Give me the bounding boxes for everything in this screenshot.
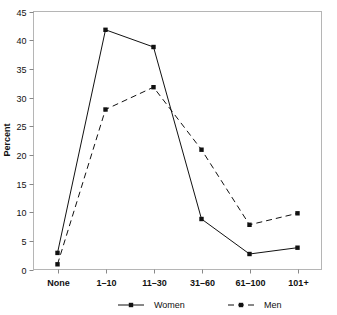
x-category-label: 31–60	[190, 278, 215, 288]
chart-figure: 051015202530354045 Percent None1–1011–30…	[0, 0, 337, 315]
series-line-women	[58, 30, 298, 254]
y-axis-ticks	[30, 13, 34, 271]
series-lines	[58, 30, 298, 264]
x-category-label: 101+	[288, 278, 308, 288]
x-category-label: None	[47, 278, 70, 288]
data-point-marker	[151, 45, 155, 49]
data-point-marker	[103, 28, 107, 32]
data-point-marker	[247, 223, 251, 227]
y-tick-label: 45	[16, 8, 26, 18]
series-line-men	[58, 87, 298, 264]
y-tick-label: 30	[16, 94, 26, 104]
legend-marker	[129, 303, 133, 307]
x-category-label: 11–30	[142, 278, 167, 288]
y-axis-title: Percent	[2, 123, 12, 156]
y-tick-label: 15	[16, 180, 26, 190]
legend-label-women: Women	[154, 300, 185, 310]
legend-marker	[239, 303, 243, 307]
data-point-marker	[55, 251, 59, 255]
data-point-marker	[55, 262, 59, 266]
x-axis-ticks	[59, 270, 299, 274]
data-point-marker	[295, 246, 299, 250]
data-point-marker	[199, 148, 203, 152]
data-point-marker	[199, 217, 203, 221]
line-chart: 051015202530354045 Percent None1–1011–30…	[0, 0, 337, 315]
y-tick-label: 40	[16, 36, 26, 46]
legend-label-men: Men	[264, 300, 282, 310]
y-tick-label: 10	[16, 208, 26, 218]
y-tick-label: 0	[21, 266, 26, 276]
series-markers	[55, 28, 299, 267]
data-point-marker	[247, 252, 251, 256]
x-category-label: 1–10	[96, 278, 116, 288]
y-tick-label: 20	[16, 151, 26, 161]
y-tick-label: 25	[16, 122, 26, 132]
data-point-marker	[295, 211, 299, 215]
chart-legend: WomenMen	[118, 300, 282, 310]
x-axis-category-labels: None1–1011–3031–6061–100101+	[47, 278, 308, 288]
y-tick-label: 5	[21, 237, 26, 247]
y-tick-label: 35	[16, 65, 26, 75]
data-point-marker	[151, 85, 155, 89]
plot-frame	[34, 12, 322, 270]
y-axis-tick-labels: 051015202530354045	[16, 8, 26, 276]
data-point-marker	[103, 107, 107, 111]
x-category-label: 61–100	[235, 278, 265, 288]
